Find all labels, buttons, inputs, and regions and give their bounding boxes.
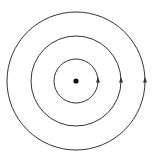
center-dot [73, 78, 78, 83]
arrow-up-icon [119, 77, 123, 83]
concentric-orbits-diagram [0, 0, 155, 157]
arrow-up-icon [143, 77, 147, 83]
arrow-up-icon [96, 77, 100, 83]
